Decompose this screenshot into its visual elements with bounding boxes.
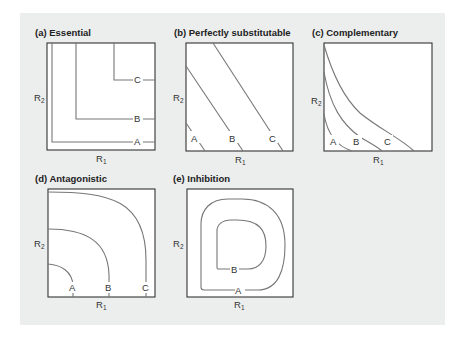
curve-label-b: B — [229, 133, 235, 144]
panel-complementary: (c) Complementary A B C R1 R2 — [311, 27, 432, 166]
curve-label-a: A — [330, 136, 337, 147]
panel-title: (b) Perfectly substitutable — [174, 27, 291, 38]
panel-title: (d) Antagonistic — [35, 173, 107, 184]
curve-label-c: C — [269, 133, 276, 144]
curve-label-b: B — [134, 113, 140, 124]
plot-box — [47, 43, 155, 150]
plot-box — [48, 189, 155, 297]
plot-box — [324, 43, 432, 151]
curve-label-c: C — [384, 136, 391, 147]
panel-title: (c) Complementary — [312, 27, 399, 38]
panel-perfectly-substitutable: (b) Perfectly substitutable A B C R1 R2 — [173, 27, 293, 166]
panel-inhibition: (e) Inhibition A B R1 R2 — [173, 173, 293, 311]
panel-essential: (a) Essential A B C R1 R2 — [34, 27, 155, 165]
panel-title: (e) Inhibition — [173, 173, 230, 184]
panel-antagonistic: (d) Antagonistic A B C R1 R2 — [34, 173, 155, 311]
curve-label-b: B — [353, 136, 359, 147]
curve-label-a: A — [69, 282, 76, 293]
curve-label-a: A — [134, 136, 141, 147]
curve-label-c: C — [142, 282, 149, 293]
curve-label-b: B — [105, 282, 111, 293]
curve-label-c: C — [134, 74, 141, 85]
curve-label-a: A — [191, 133, 198, 144]
curve-label-a: A — [235, 285, 242, 296]
resource-isocline-figure: (a) Essential A B C R1 R2 (b) Perfectly … — [0, 0, 464, 343]
panel-title: (a) Essential — [35, 27, 91, 38]
curve-label-b: B — [231, 264, 237, 275]
